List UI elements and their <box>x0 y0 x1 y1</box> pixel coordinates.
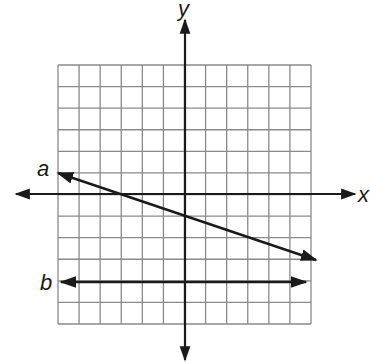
y-axis: y <box>176 0 191 360</box>
line-a-label: a <box>37 156 49 181</box>
line-b-label: b <box>40 270 52 295</box>
y-axis-label: y <box>176 0 191 21</box>
x-axis-label: x <box>357 182 370 207</box>
line-b: b <box>40 270 306 295</box>
coordinate-plane-figure: x y a b <box>0 0 370 364</box>
x-axis: x <box>16 182 370 207</box>
